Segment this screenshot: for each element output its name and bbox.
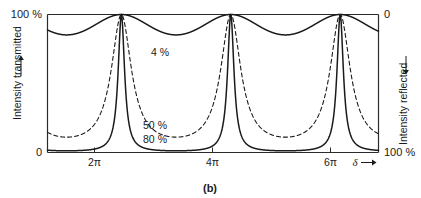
left-axis-top-label: 100 % xyxy=(11,8,42,20)
x-axis-variable-label: δ xyxy=(352,156,358,168)
airy-transmittance-chart: 100 % 0 0 100 % 2π 4π 6π δ Intensity tra… xyxy=(0,0,421,198)
curve-50 xyxy=(48,15,379,138)
curve-label-4-percent: 4 % xyxy=(151,46,169,58)
figure-caption: (b) xyxy=(203,182,217,194)
right-axis-title: Intensity reflected xyxy=(397,63,409,145)
right-arrow-icon xyxy=(361,160,377,166)
x-tick-label-4pi: 4π xyxy=(206,156,219,168)
left-axis-bottom-label: 0 xyxy=(36,146,42,158)
plot-frame xyxy=(48,15,379,153)
curve-80 xyxy=(48,15,379,151)
x-tick-label-6pi: 6π xyxy=(324,156,337,168)
curve-label-50-percent: 50 % xyxy=(143,119,167,131)
curve-label-80-percent: 80 % xyxy=(143,133,167,145)
curve-group xyxy=(48,15,379,151)
right-axis-top-label: 0 xyxy=(384,8,390,20)
x-tick-label-2pi: 2π xyxy=(88,156,101,168)
right-axis-bottom-label: 100 % xyxy=(384,146,415,158)
curve-4 xyxy=(48,15,379,35)
figure-container: 100 % 0 0 100 % 2π 4π 6π δ Intensity tra… xyxy=(0,0,421,198)
